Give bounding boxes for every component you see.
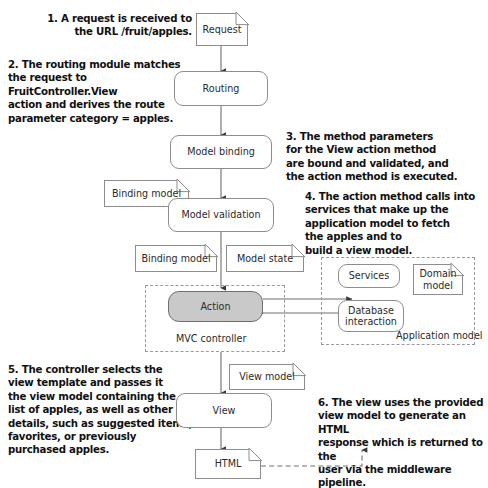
node-view[interactable]: View [176,393,272,428]
view-model-label: View model [229,364,305,390]
node-html[interactable]: HTML [195,449,261,479]
note-step-2: 2. The routing module matches the reques… [8,58,194,125]
routing-label: Routing [203,83,240,95]
note-step-3: 3. The method parameters for the View ac… [286,130,482,184]
model-validation-label: Model validation [181,209,260,221]
diagram-canvas: 1. A request is received to the URL /fru… [0,0,488,488]
group-application-model-label: Application model [396,330,483,341]
node-model-binding[interactable]: Model binding [170,135,272,169]
services-label: Services [349,270,389,282]
node-request[interactable]: Request [196,13,248,46]
note-step-4: 4. The action method calls into services… [305,190,487,257]
model-binding-label: Model binding [187,146,255,158]
action-label: Action [200,301,230,313]
view-label: View [213,405,236,417]
node-services[interactable]: Services [338,264,400,288]
node-binding-model-lower[interactable]: Binding model [135,245,217,272]
node-model-state[interactable]: Model state [226,245,304,272]
html-label: HTML [195,449,261,479]
node-view-model[interactable]: View model [229,364,305,390]
node-domain-model[interactable]: Domain model [413,264,463,295]
note-step-1: 1. A request is received to the URL /fru… [16,12,192,39]
group-mvc-controller-label: MVC controller [176,333,246,344]
model-state-label: Model state [226,245,304,272]
request-label: Request [196,13,248,46]
node-database-interaction[interactable]: Database interaction [338,300,404,332]
binding-model-lower-label: Binding model [135,245,217,272]
domain-model-label: Domain model [413,264,463,295]
node-model-validation[interactable]: Model validation [168,198,274,232]
node-action[interactable]: Action [168,291,263,322]
node-routing[interactable]: Routing [174,71,268,106]
database-interaction-label: Database interaction [345,305,397,327]
note-step-6: 6. The view uses the provided view model… [318,396,488,488]
